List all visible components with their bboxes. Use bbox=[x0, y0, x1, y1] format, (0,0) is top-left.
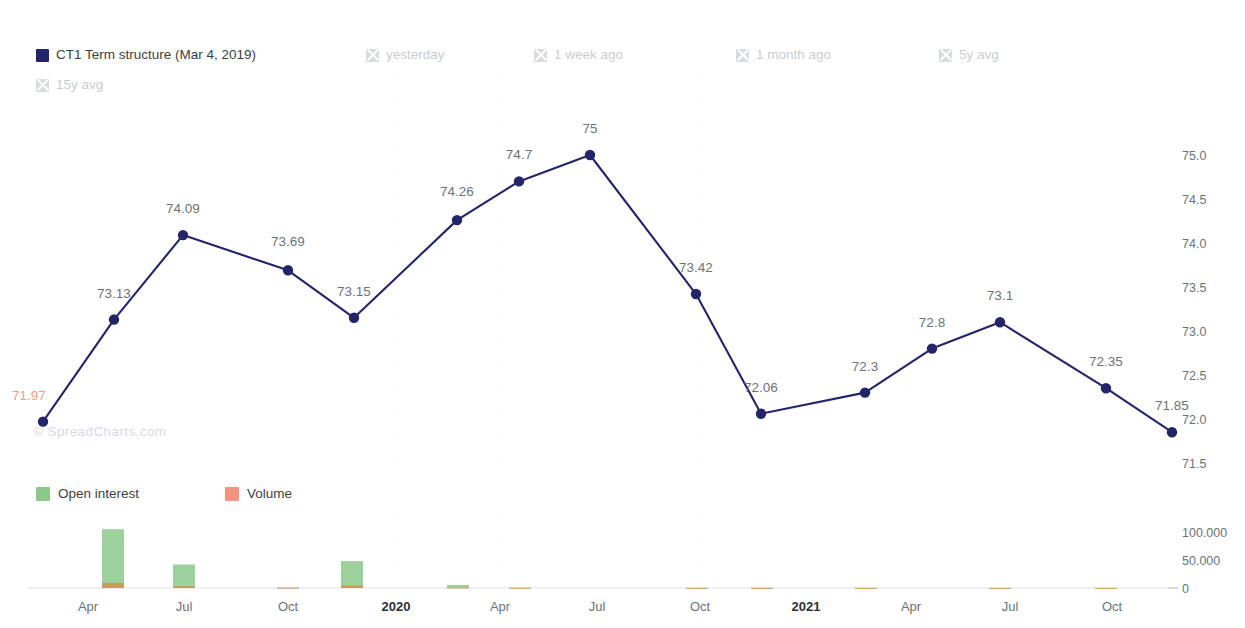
y-axis-tick-label: 72.0 bbox=[1182, 413, 1206, 427]
x-axis-ticks: AprJulOct2020AprJulOct2021AprJulOct bbox=[78, 599, 1123, 614]
bar-volume[interactable] bbox=[173, 586, 195, 588]
data-point-marker[interactable] bbox=[452, 215, 462, 225]
square-swatch-icon bbox=[36, 487, 50, 501]
data-point-marker[interactable] bbox=[927, 343, 937, 353]
data-point-marker[interactable] bbox=[1167, 427, 1177, 437]
data-point-label: 71.85 bbox=[1155, 398, 1189, 413]
bar-volume[interactable] bbox=[447, 588, 469, 589]
y-axis-tick-label: 71.5 bbox=[1182, 457, 1206, 470]
x-axis-tick-label: Apr bbox=[901, 599, 922, 614]
data-point-marker[interactable] bbox=[349, 313, 359, 323]
data-point-marker[interactable] bbox=[178, 230, 188, 240]
x-axis-tick-label: Jul bbox=[1002, 599, 1019, 614]
bar-volume[interactable] bbox=[989, 588, 1011, 589]
data-point-marker[interactable] bbox=[1101, 383, 1111, 393]
price-y-axis: 71.572.072.573.073.574.074.575.0 bbox=[1182, 149, 1206, 470]
bar-open-interest[interactable] bbox=[102, 529, 124, 588]
bar-y-axis: 100.00050.0000 bbox=[1168, 526, 1227, 596]
data-point-label: 74.09 bbox=[166, 201, 200, 216]
data-point-label: 74.26 bbox=[440, 184, 474, 199]
data-point-marker[interactable] bbox=[514, 176, 524, 186]
x-axis-tick-label: Jul bbox=[589, 599, 606, 614]
x-axis-tick-label: Apr bbox=[490, 599, 511, 614]
bar-open-interest[interactable] bbox=[173, 564, 195, 588]
y-axis-tick-label: 73.5 bbox=[1182, 281, 1206, 295]
data-point-label: 73.69 bbox=[271, 234, 305, 249]
bar-legend: Open interest Volume bbox=[36, 486, 378, 501]
bar-open-interest[interactable] bbox=[447, 585, 469, 588]
y-axis-tick-label: 50.000 bbox=[1182, 554, 1220, 568]
x-axis-tick-label: Oct bbox=[1102, 599, 1123, 614]
y-axis-tick-label: 75.0 bbox=[1182, 149, 1206, 163]
data-point-label: 71.97 bbox=[12, 388, 46, 403]
legend-label: Volume bbox=[247, 486, 292, 501]
data-point-label: 73.15 bbox=[337, 284, 371, 299]
bar-volume[interactable] bbox=[686, 588, 708, 589]
y-axis-tick-label: 73.0 bbox=[1182, 325, 1206, 339]
y-axis-tick-label: 74.5 bbox=[1182, 193, 1206, 207]
data-point-label: 73.42 bbox=[679, 260, 713, 275]
data-point-marker[interactable] bbox=[585, 150, 595, 160]
x-axis-tick-label: Oct bbox=[278, 599, 299, 614]
y-axis-tick-label: 72.5 bbox=[1182, 369, 1206, 383]
data-point-label: 72.35 bbox=[1089, 354, 1123, 369]
data-point-marker[interactable] bbox=[283, 265, 293, 275]
data-point-label: 73.13 bbox=[97, 286, 131, 301]
square-swatch-icon bbox=[225, 487, 239, 501]
legend-label: Open interest bbox=[58, 486, 139, 501]
bar-volume[interactable] bbox=[102, 583, 124, 588]
price-point-labels: 71.9773.1374.0973.6973.1574.2674.77573.4… bbox=[12, 121, 1189, 413]
price-line-svg: 71.9773.1374.0973.6973.1574.2674.77573.4… bbox=[0, 0, 1245, 470]
y-axis-tick-label: 0 bbox=[1182, 582, 1189, 596]
bar-marks bbox=[102, 529, 1117, 589]
y-axis-tick-label: 74.0 bbox=[1182, 237, 1206, 251]
volume-oi-panel: 100.00050.0000 AprJulOct2020AprJulOct202… bbox=[0, 510, 1245, 628]
bar-gridlines bbox=[28, 512, 1178, 588]
legend-item-open-interest[interactable]: Open interest bbox=[36, 486, 139, 501]
y-axis-tick-label: 100.000 bbox=[1182, 526, 1227, 540]
data-point-label: 74.7 bbox=[506, 147, 532, 162]
volume-oi-svg: 100.00050.0000 AprJulOct2020AprJulOct202… bbox=[0, 510, 1245, 628]
bar-open-interest[interactable] bbox=[341, 561, 363, 588]
price-gridlines bbox=[88, 60, 1112, 466]
x-axis-tick-label: Apr bbox=[78, 599, 99, 614]
legend-item-volume[interactable]: Volume bbox=[225, 486, 292, 501]
x-axis-tick-label: Oct bbox=[690, 599, 711, 614]
bar-volume[interactable] bbox=[277, 588, 299, 589]
data-point-marker[interactable] bbox=[995, 317, 1005, 327]
data-point-label: 73.1 bbox=[987, 288, 1013, 303]
data-point-marker[interactable] bbox=[109, 314, 119, 324]
data-point-label: 75 bbox=[582, 121, 597, 136]
bar-volume[interactable] bbox=[509, 588, 531, 589]
data-point-marker[interactable] bbox=[691, 289, 701, 299]
data-point-marker[interactable] bbox=[860, 387, 870, 397]
watermark: © SpreadCharts.com bbox=[33, 424, 166, 439]
term-structure-chart: CT1 Term structure (Mar 4, 2019) yesterd… bbox=[0, 0, 1245, 628]
bar-volume[interactable] bbox=[1095, 588, 1117, 589]
data-point-marker[interactable] bbox=[756, 409, 766, 419]
data-point-label: 72.8 bbox=[919, 315, 945, 330]
data-point-label: 72.3 bbox=[852, 359, 878, 374]
bar-volume[interactable] bbox=[341, 586, 363, 588]
x-axis-tick-label: Jul bbox=[176, 599, 193, 614]
bar-volume[interactable] bbox=[855, 588, 877, 589]
price-line-panel: 71.9773.1374.0973.6973.1574.2674.77573.4… bbox=[0, 0, 1245, 470]
x-axis-tick-label: 2021 bbox=[792, 599, 821, 614]
x-axis-tick-label: 2020 bbox=[382, 599, 411, 614]
bar-volume[interactable] bbox=[751, 588, 773, 589]
data-point-label: 72.06 bbox=[744, 380, 778, 395]
